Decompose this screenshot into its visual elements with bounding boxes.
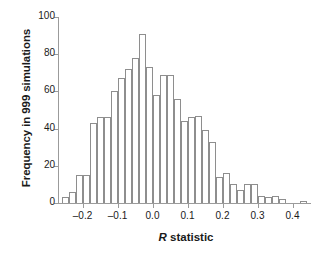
histogram-bar bbox=[111, 91, 118, 203]
x-tick-mark bbox=[223, 204, 224, 208]
histogram-bar bbox=[195, 116, 202, 203]
x-axis-title: R statistic bbox=[58, 231, 314, 243]
x-tick-label: 0.2 bbox=[216, 210, 230, 221]
histogram-bar bbox=[223, 173, 230, 203]
histogram-bar bbox=[202, 130, 209, 203]
x-tick-mark bbox=[83, 204, 84, 208]
x-tick-label: –0.2 bbox=[73, 210, 92, 221]
histogram-bar bbox=[160, 75, 167, 203]
histogram-bar bbox=[83, 175, 90, 203]
x-tick-mark bbox=[118, 204, 119, 208]
histogram-bar bbox=[216, 177, 223, 203]
plot-area: 020406080100 bbox=[58, 17, 310, 203]
histogram-bar bbox=[90, 123, 97, 203]
y-tick-label: 40 bbox=[44, 122, 55, 133]
histogram-bar bbox=[97, 117, 104, 203]
histogram-bar bbox=[174, 99, 181, 203]
histogram-bar bbox=[125, 69, 132, 203]
histogram-bar bbox=[69, 192, 76, 203]
y-tick-label: 0 bbox=[49, 196, 55, 207]
histogram-bar bbox=[258, 196, 265, 203]
y-tick-label: 20 bbox=[44, 159, 55, 170]
histogram-bar bbox=[181, 121, 188, 203]
histogram-bar bbox=[146, 67, 153, 203]
y-tick-label: 60 bbox=[44, 84, 55, 95]
x-tick-label: 0.0 bbox=[146, 210, 160, 221]
histogram-bar bbox=[244, 184, 251, 203]
y-tick-label: 100 bbox=[38, 10, 55, 21]
histogram-bar bbox=[62, 197, 69, 203]
x-tick-mark bbox=[258, 204, 259, 208]
histogram-bar bbox=[279, 199, 286, 203]
histogram-bar bbox=[209, 142, 216, 203]
x-tick-label: –0.1 bbox=[108, 210, 127, 221]
x-tick-mark bbox=[293, 204, 294, 208]
histogram-bar bbox=[118, 78, 125, 203]
x-axis-title-rest: statistic bbox=[167, 231, 214, 243]
y-axis-title: Frequency in 999 simulations bbox=[17, 3, 35, 213]
y-tick-label: 80 bbox=[44, 47, 55, 58]
histogram-bar bbox=[132, 58, 139, 203]
x-axis-title-italic: R bbox=[159, 231, 167, 243]
histogram-bar bbox=[104, 117, 111, 203]
histogram-bar bbox=[237, 190, 244, 203]
histogram-bar bbox=[139, 34, 146, 203]
x-tick-label: 0.4 bbox=[286, 210, 300, 221]
x-tick-mark bbox=[188, 204, 189, 208]
histogram-bar bbox=[153, 95, 160, 203]
histogram-bar bbox=[300, 201, 307, 203]
histogram-bar bbox=[167, 75, 174, 203]
histogram-bar bbox=[230, 184, 237, 203]
histogram-bar bbox=[251, 184, 258, 203]
histogram-bar bbox=[76, 175, 83, 203]
x-axis-ticks: –0.2–0.10.00.10.20.30.4 bbox=[58, 204, 311, 226]
x-tick-mark bbox=[153, 204, 154, 208]
histogram-bar bbox=[188, 117, 195, 203]
x-tick-label: 0.3 bbox=[251, 210, 265, 221]
histogram-figure: Frequency in 999 simulations 02040608010… bbox=[0, 0, 319, 254]
x-tick-label: 0.1 bbox=[181, 210, 195, 221]
histogram-bar bbox=[272, 196, 279, 203]
histogram-bar bbox=[265, 197, 272, 203]
